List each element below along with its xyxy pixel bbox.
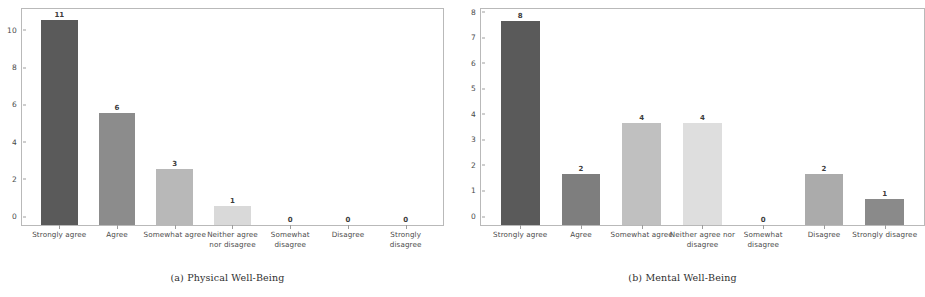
bar-value-label: 3	[172, 160, 177, 168]
y-axis-tick-label: 5	[471, 84, 481, 93]
x-axis-tick-mark	[175, 225, 176, 229]
x-axis-tick-mark	[348, 225, 349, 229]
bar-slot: 2	[551, 9, 612, 225]
bar-slot: 0	[319, 9, 377, 225]
bar-value-label: 0	[403, 216, 408, 224]
bar-value-label: 1	[230, 197, 235, 205]
bar	[805, 174, 844, 225]
y-axis-tick-label: 10	[7, 25, 22, 34]
x-axis-tick-label: Somewhat agree	[608, 230, 676, 240]
x-axis-tick-label: Agree	[547, 230, 615, 240]
bar-value-label: 1	[882, 190, 887, 198]
bar	[622, 123, 661, 225]
bar-slot: 0	[733, 9, 794, 225]
bar-group-physical: 11631000	[22, 9, 443, 225]
x-axis-tick-label: Disagree	[790, 230, 858, 240]
x-axis-tick-label: Somewhat disagree	[258, 230, 323, 249]
panel-physical-well-being: 11631000 Strongly agreeAgreeSomewhat agr…	[0, 0, 455, 297]
bar-slot: 1	[854, 9, 915, 225]
bar-value-label: 0	[288, 216, 293, 224]
x-axis-tick-label: Strongly agree	[27, 230, 92, 240]
x-axis-tick-mark	[885, 225, 886, 229]
x-axis-tick-mark	[702, 225, 703, 229]
y-axis-tick-label: 7	[471, 33, 481, 42]
x-axis-tick-mark	[763, 225, 764, 229]
bar-value-label: 4	[700, 114, 705, 122]
bar-slot: 8	[490, 9, 551, 225]
x-axis-tick-label: Agree	[85, 230, 150, 240]
bar-value-label: 4	[639, 114, 644, 122]
y-axis-tick-label: 8	[471, 7, 481, 16]
x-axis-tick-label: Neither agree nor disagree	[200, 230, 265, 249]
bar-value-label: 0	[761, 216, 766, 224]
x-axis-tick-label: Somewhat agree	[142, 230, 207, 240]
y-axis-tick-label: 4	[12, 137, 22, 146]
y-axis-tick-label: 3	[471, 135, 481, 144]
caption-mental: (b) Mental Well-Being	[455, 272, 910, 283]
x-axis-tick-mark	[824, 225, 825, 229]
bar	[501, 21, 540, 225]
bar	[156, 169, 193, 225]
y-axis-tick-label: 6	[12, 100, 22, 109]
bar-value-label: 0	[346, 216, 351, 224]
bar-slot: 2	[794, 9, 855, 225]
bar	[99, 113, 136, 225]
bar-slot: 4	[611, 9, 672, 225]
bar-group-mental: 8244021	[481, 9, 924, 225]
y-axis-tick-label: 8	[12, 63, 22, 72]
bar-value-label: 6	[115, 104, 120, 112]
y-axis-tick-label: 0	[471, 212, 481, 221]
bar	[214, 206, 251, 225]
x-axis-tick-label: Somewhat disagree	[729, 230, 797, 249]
bar-slot: 4	[672, 9, 733, 225]
x-axis-tick-mark	[59, 225, 60, 229]
x-axis-tick-label: Strongly agree	[486, 230, 554, 240]
bar	[562, 174, 601, 225]
plot-area-mental: 8244021 Strongly agreeAgreeSomewhat agre…	[480, 8, 925, 226]
bar-slot: 1	[204, 9, 262, 225]
bar-value-label: 2	[579, 165, 584, 173]
bar-value-label: 2	[822, 165, 827, 173]
y-axis-tick-label: 2	[471, 160, 481, 169]
bar-slot: 3	[146, 9, 204, 225]
x-axis-tick-mark	[290, 225, 291, 229]
x-axis-tick-label: Strongly disagree	[373, 230, 438, 249]
panel-mental-well-being: 8244021 Strongly agreeAgreeSomewhat agre…	[455, 0, 910, 297]
bar-value-label: 11	[54, 11, 64, 19]
bar-slot: 11	[30, 9, 88, 225]
x-axis-tick-mark	[117, 225, 118, 229]
y-axis-tick-label: 1	[471, 186, 481, 195]
x-axis-tick-mark	[520, 225, 521, 229]
y-axis-tick-label: 4	[471, 109, 481, 118]
bar-slot: 0	[377, 9, 435, 225]
bar-value-label: 8	[518, 12, 523, 20]
y-axis-tick-label: 0	[12, 212, 22, 221]
x-axis-tick-mark	[581, 225, 582, 229]
bar	[41, 20, 78, 225]
y-axis-tick-label: 6	[471, 58, 481, 67]
x-axis-tick-mark	[406, 225, 407, 229]
x-axis-tick-label: Disagree	[316, 230, 381, 240]
y-axis-tick-label: 2	[12, 174, 22, 183]
x-axis-tick-label: Strongly disagree	[851, 230, 919, 240]
bar-slot: 0	[261, 9, 319, 225]
x-axis-tick-mark	[232, 225, 233, 229]
bar-slot: 6	[88, 9, 146, 225]
x-axis-tick-mark	[642, 225, 643, 229]
bar	[683, 123, 722, 225]
plot-area-physical: 11631000 Strongly agreeAgreeSomewhat agr…	[21, 8, 444, 226]
caption-physical: (a) Physical Well-Being	[0, 272, 455, 283]
x-axis-tick-label: Neither agree nor disagree	[668, 230, 736, 249]
bar	[865, 199, 904, 225]
